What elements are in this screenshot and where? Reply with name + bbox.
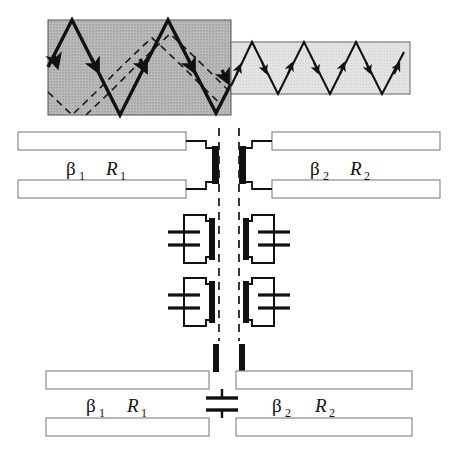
lower-left-port-label: β 1 R 1	[86, 395, 147, 420]
row-2-black-bar-right	[243, 281, 249, 323]
row-2-black-bar-left	[209, 281, 215, 323]
beta-2-symbol: β	[310, 158, 320, 179]
r-2-subscript-lower: 2	[329, 406, 335, 420]
lower-right-bottom-conductor	[236, 418, 412, 436]
beta-2-subscript-lower: 2	[285, 406, 291, 420]
lc-cell-left-loop-2	[184, 278, 212, 326]
r-1-subscript-lower: 1	[141, 406, 147, 420]
beta-2-subscript: 2	[323, 169, 329, 183]
upper-left-top-lead	[186, 141, 215, 148]
r-1-subscript: 1	[120, 169, 126, 183]
beta-1-symbol: β	[66, 158, 76, 179]
lower-right-top-conductor	[236, 371, 412, 389]
waveguide-figure: β 1 R 1 β 2 R 2	[0, 0, 458, 454]
lower-left-bottom-conductor	[46, 418, 209, 436]
lower-left-top-conductor	[46, 371, 209, 389]
r-1-symbol-lower: R	[126, 395, 139, 416]
lower-right-port-label: β 2 R 2	[272, 395, 335, 420]
upper-right-top-lead	[243, 141, 272, 148]
thick-guide-box	[48, 20, 231, 115]
lc-cell-left-loop	[184, 215, 212, 263]
r-1-symbol: R	[105, 158, 118, 179]
junction-black-bar-left	[212, 146, 219, 184]
beta-1-symbol-lower: β	[86, 395, 96, 416]
upper-right-port-label: β 2 R 2	[310, 158, 370, 183]
r-2-symbol: R	[349, 158, 362, 179]
row-1-black-bar-left	[209, 218, 215, 260]
upper-right-top-conductor	[272, 132, 440, 150]
upper-equivalent-circuit: β 1 R 1 β 2 R 2	[18, 128, 440, 341]
r-2-subscript: 2	[364, 169, 370, 183]
upper-left-port-label: β 1 R 1	[66, 158, 126, 183]
row-1-black-bar-right	[243, 218, 249, 260]
lc-cell-right-loop	[246, 215, 274, 263]
thin-guide-box	[231, 42, 410, 94]
resonator-row-2	[168, 278, 290, 326]
lc-cell-right-loop-2	[246, 278, 274, 326]
upper-left-bottom-lead	[186, 182, 215, 189]
beta-1-subscript-lower: 1	[99, 406, 105, 420]
lower-stub-bar-left	[213, 344, 219, 372]
beta-1-subscript: 1	[79, 169, 85, 183]
upper-right-bottom-lead	[243, 182, 272, 189]
upper-right-bottom-conductor	[272, 180, 440, 198]
resonator-row-1	[168, 215, 290, 263]
lower-equivalent-circuit: β 1 R 1 β 2 R 2	[46, 344, 412, 436]
upper-left-top-conductor	[18, 132, 186, 150]
figure-root: β 1 R 1 β 2 R 2	[0, 0, 458, 454]
beta-2-symbol-lower: β	[272, 395, 282, 416]
junction-black-bar-right	[239, 146, 246, 184]
ray-bounce-diagram	[48, 20, 410, 115]
upper-left-bottom-conductor	[18, 180, 186, 198]
r-2-symbol-lower: R	[314, 395, 327, 416]
lower-stub-bar-right	[239, 344, 245, 372]
